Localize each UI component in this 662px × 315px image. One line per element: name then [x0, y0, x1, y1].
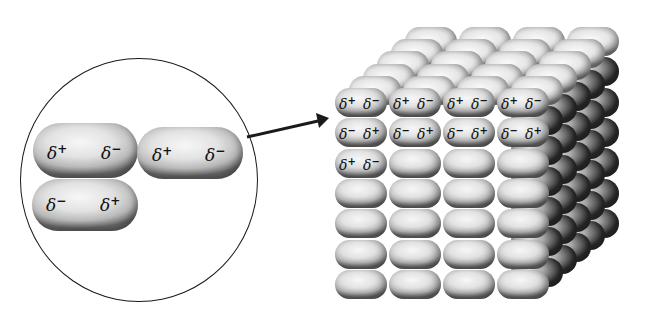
partial-charge-label: δ−	[363, 97, 380, 111]
partial-charge-label: δ−	[447, 127, 464, 141]
partial-charge-label: δ+	[363, 127, 380, 141]
lattice-molecule	[389, 149, 441, 178]
lattice-molecule	[443, 270, 495, 299]
partial-charge-label: δ+	[417, 127, 434, 141]
partial-charge-label: δ+	[447, 97, 464, 111]
lattice-molecule	[443, 149, 495, 178]
lattice-molecule: δ+δ−	[443, 88, 495, 117]
dipole-diagram: δ+ δ− δ+ δ− δ− δ+ δ+δ−δ+δ−δ+δ−δ+δ−δ−δ+δ−…	[0, 0, 662, 315]
lattice-molecule: δ−δ+	[443, 118, 495, 147]
partial-charge-label: δ+	[471, 127, 488, 141]
lattice-molecule	[443, 240, 495, 269]
lattice-molecule	[335, 270, 387, 299]
lattice-molecule	[335, 240, 387, 269]
partial-charge-label: δ+	[339, 158, 356, 172]
lattice-molecule: δ−δ+	[389, 118, 441, 147]
lattice-molecule	[497, 179, 549, 208]
lattice-molecule	[497, 240, 549, 269]
lattice-molecule: δ+δ−	[497, 88, 549, 117]
partial-charge-label: δ−	[471, 97, 488, 111]
partial-charge-label: δ+	[525, 127, 542, 141]
lattice-molecule	[389, 270, 441, 299]
partial-charge-label: δ−	[417, 97, 434, 111]
lattice-molecule: δ+δ−	[335, 88, 387, 117]
lattice-molecule	[389, 179, 441, 208]
lattice-molecule	[335, 209, 387, 238]
lattice-molecule: δ−δ+	[497, 118, 549, 147]
lattice-molecule	[497, 270, 549, 299]
partial-charge-label: δ−	[363, 158, 380, 172]
lattice-molecule	[389, 240, 441, 269]
partial-charge-label: δ+	[501, 97, 518, 111]
lattice-molecule	[497, 209, 549, 238]
lattice-molecule: δ+δ−	[389, 88, 441, 117]
partial-charge-label: δ+	[339, 97, 356, 111]
partial-charge-label: δ−	[393, 127, 410, 141]
lattice-molecule: δ+δ−	[335, 149, 387, 178]
lattice-molecule	[443, 209, 495, 238]
lattice-molecule: δ−δ+	[335, 118, 387, 147]
lattice-molecule	[389, 209, 441, 238]
partial-charge-label: δ−	[339, 127, 356, 141]
partial-charge-label: δ−	[525, 97, 542, 111]
lattice-molecule	[335, 179, 387, 208]
partial-charge-label: δ−	[501, 127, 518, 141]
lattice-molecule	[443, 179, 495, 208]
partial-charge-label: δ+	[393, 97, 410, 111]
lattice-molecule	[497, 149, 549, 178]
